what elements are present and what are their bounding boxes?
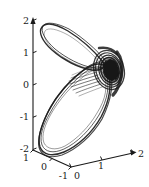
plot-canvas: 2 1 0 -1 -2 1 0 -1 0 1 2 [0,0,149,187]
depth-tick-label-0: 0 [41,161,47,172]
horizontal-tick-label-0: 0 [74,170,80,181]
vertical-tick-label-neg1: -1 [20,111,29,122]
vertical-tick-label-0: 0 [23,79,29,90]
depth-tick-label-1: 1 [23,152,29,163]
vertical-tick-label-2: 2 [23,15,29,26]
horizontal-tick-label-1: 1 [98,160,104,171]
trajectory-figure: 2 1 0 -1 -2 1 0 -1 0 1 2 [0,0,149,187]
trajectory-curve [39,23,129,157]
outer-teardrop-loop-winding-3 [41,67,108,152]
vertical-tick-label-1: 1 [23,47,29,58]
depth-axis-ticks [31,150,72,170]
depth-tick-label-neg1: -1 [59,170,68,181]
horizontal-tick-label-2: 2 [138,148,144,159]
